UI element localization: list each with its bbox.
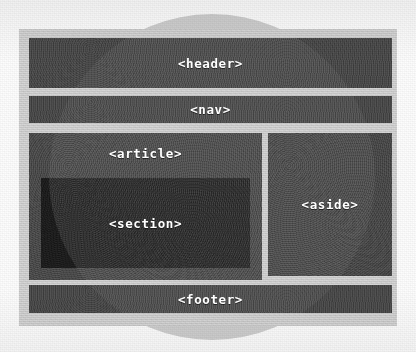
block-footer-label: <footer> <box>178 292 243 307</box>
block-aside[interactable]: <aside> <box>268 133 392 276</box>
block-header-label: <header> <box>178 56 243 71</box>
block-nav[interactable]: <nav> <box>29 96 392 123</box>
block-header[interactable]: <header> <box>29 38 392 88</box>
html5-layout-diagram: <header> <nav> <article> <section> <asid… <box>0 0 416 352</box>
block-article-label: <article> <box>29 146 262 161</box>
block-aside-label: <aside> <box>302 197 359 212</box>
block-section-label: <section> <box>109 216 182 231</box>
block-footer[interactable]: <footer> <box>29 285 392 313</box>
block-section[interactable]: <section> <box>41 178 250 268</box>
block-nav-label: <nav> <box>190 102 231 117</box>
